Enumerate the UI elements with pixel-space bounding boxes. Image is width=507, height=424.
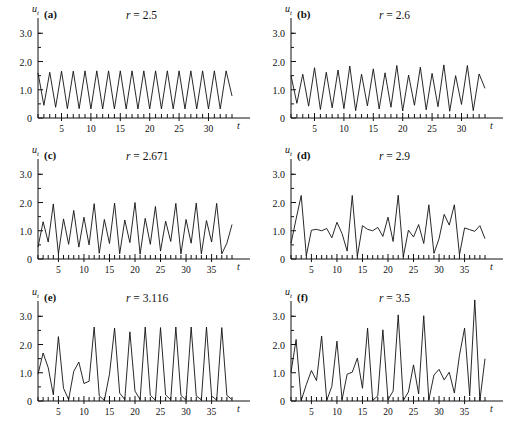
r-value: 2.5 [143, 9, 157, 21]
y-tick-label: 1.0 [273, 226, 286, 237]
r-parameter-label: r = 3.5 [379, 292, 410, 304]
x-tick-label: 30 [434, 407, 444, 417]
x-tick-label: 10 [332, 407, 342, 417]
x-tick-label: 25 [427, 124, 437, 134]
y-tick-label: 1.0 [20, 85, 33, 96]
figure-logistic-map-time-series: 01.02.03.051015202530utt(a)r = 2.501.02.… [0, 0, 507, 424]
r-equals: = [383, 292, 395, 304]
y-tick-label: 0 [280, 396, 285, 407]
x-axis-label: t [237, 403, 240, 414]
r-value: 2.671 [143, 150, 169, 162]
x-tick-label: 35 [460, 407, 470, 417]
y-tick-label: 0 [280, 113, 285, 124]
x-tick-label: 10 [332, 265, 342, 275]
x-tick-label: 30 [457, 124, 467, 134]
x-tick-label: 15 [358, 265, 368, 275]
x-tick-label: 25 [409, 265, 419, 275]
x-tick-label: 5 [56, 407, 61, 417]
x-tick-label: 20 [383, 265, 393, 275]
data-series-line [291, 195, 485, 257]
r-equals: = [130, 9, 142, 21]
y-axis-label: ut [32, 286, 39, 300]
data-series-line [38, 71, 232, 109]
y-tick-label: 3.0 [20, 28, 33, 39]
plot-area-a: 01.02.03.051015202530 [0, 0, 253, 141]
data-series-line [291, 300, 485, 401]
plot-panel-b: 01.02.03.051015202530utt(b)r = 2.6 [253, 0, 506, 141]
y-tick-label: 0 [280, 254, 285, 265]
data-series-line [38, 203, 232, 255]
panel-letter: (e) [44, 291, 56, 303]
x-tick-label: 25 [409, 407, 419, 417]
y-tick-label: 2.0 [273, 340, 286, 351]
x-tick-label: 5 [59, 124, 64, 134]
x-axis-label: t [490, 120, 493, 131]
y-tick-label: 3.0 [273, 311, 286, 322]
y-axis-label: ut [285, 286, 292, 300]
data-series-line [38, 327, 232, 400]
y-tick-label: 2.0 [273, 57, 286, 68]
y-tick-label: 3.0 [20, 169, 33, 180]
x-tick-label: 35 [207, 265, 217, 275]
y-tick-label: 3.0 [273, 169, 286, 180]
x-tick-label: 10 [79, 265, 89, 275]
x-tick-label: 5 [56, 265, 61, 275]
x-tick-label: 10 [339, 124, 349, 134]
plot-panel-a: 01.02.03.051015202530utt(a)r = 2.5 [0, 0, 253, 141]
x-tick-label: 30 [204, 124, 214, 134]
y-tick-label: 2.0 [20, 198, 33, 209]
y-axis-label-sub: t [37, 292, 39, 300]
x-tick-label: 30 [434, 265, 444, 275]
x-tick-label: 5 [312, 124, 317, 134]
x-tick-label: 25 [156, 407, 166, 417]
r-equals: = [383, 9, 395, 21]
plot-area-e: 01.02.03.05101520253035 [0, 283, 253, 424]
y-tick-label: 0 [27, 113, 32, 124]
plot-area-b: 01.02.03.051015202530 [253, 0, 506, 141]
r-parameter-label: r = 3.116 [126, 292, 168, 304]
r-parameter-label: r = 2.671 [126, 150, 169, 162]
y-axis-label: ut [285, 3, 292, 17]
y-tick-label: 3.0 [20, 311, 33, 322]
x-tick-label: 20 [383, 407, 393, 417]
y-axis-label-sub: t [290, 150, 292, 158]
x-tick-label: 15 [116, 124, 126, 134]
panel-letter: (b) [297, 8, 310, 20]
r-equals: = [383, 150, 395, 162]
panel-letter: (d) [297, 149, 310, 161]
y-axis-label: ut [32, 3, 39, 17]
y-axis-label-sub: t [290, 292, 292, 300]
x-tick-label: 5 [309, 265, 314, 275]
x-tick-label: 30 [181, 407, 191, 417]
plot-area-c: 01.02.03.05101520253035 [0, 141, 253, 282]
x-tick-label: 15 [105, 407, 115, 417]
y-axis-label-sub: t [37, 9, 39, 17]
r-parameter-label: r = 2.6 [379, 9, 410, 21]
plot-panel-c: 01.02.03.05101520253035utt(c)r = 2.671 [0, 141, 253, 282]
y-axis-label-sub: t [290, 9, 292, 17]
y-tick-label: 2.0 [20, 57, 33, 68]
plot-panel-f: 01.02.03.05101520253035utt(f)r = 3.5 [253, 283, 506, 424]
y-axis-label: ut [285, 144, 292, 158]
x-tick-label: 35 [460, 265, 470, 275]
r-value: 3.5 [396, 292, 410, 304]
r-equals: = [130, 292, 142, 304]
x-tick-label: 20 [398, 124, 408, 134]
x-tick-label: 10 [86, 124, 96, 134]
data-series-line [291, 65, 485, 111]
x-tick-label: 10 [79, 407, 89, 417]
panel-letter: (a) [44, 8, 57, 20]
y-tick-label: 1.0 [20, 226, 33, 237]
x-axis-label: t [237, 120, 240, 131]
y-tick-label: 1.0 [20, 368, 33, 379]
x-tick-label: 20 [130, 265, 140, 275]
y-axis-label: ut [32, 144, 39, 158]
x-tick-label: 20 [145, 124, 155, 134]
panel-letter: (c) [44, 149, 56, 161]
x-tick-label: 25 [174, 124, 184, 134]
x-tick-label: 5 [309, 407, 314, 417]
r-value: 3.116 [143, 292, 168, 304]
x-tick-label: 15 [105, 265, 115, 275]
y-tick-label: 0 [27, 396, 32, 407]
y-tick-label: 1.0 [273, 368, 286, 379]
